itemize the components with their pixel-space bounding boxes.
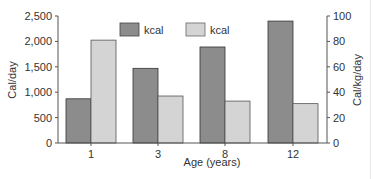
x-tick-label: 12 — [287, 148, 299, 160]
bar-cal-per-kg-day — [225, 101, 250, 143]
x-axis-label: Age (years) — [184, 156, 241, 168]
bars — [66, 21, 318, 143]
y-tick-label: 2,000 — [24, 35, 52, 47]
x-tick-label: 3 — [155, 148, 161, 160]
legend-label-light: kcal — [210, 24, 230, 36]
legend-swatch-light — [186, 23, 205, 36]
bar-cal-per-kg-day — [91, 40, 116, 143]
bar-cal-per-day — [268, 21, 293, 143]
legend: kcal kcal — [120, 23, 230, 36]
x-tick-label: 1 — [88, 148, 94, 160]
y-tick-label: 2,500 — [24, 10, 52, 22]
y-axis-label: Cal/day — [6, 61, 18, 99]
bar-cal-per-day — [200, 47, 225, 143]
legend-label-dark: kcal — [144, 24, 164, 36]
y2-tick-label: 80 — [333, 35, 345, 47]
legend-swatch-dark — [120, 23, 139, 36]
bar-cal-per-kg-day — [158, 96, 183, 143]
y2-tick-label: 40 — [333, 86, 345, 98]
bar-chart: 05001,0001,5002,0002,500 020406080100 13… — [0, 0, 376, 179]
y2-axis-label: Cal/kg/day — [351, 54, 363, 106]
right-y-axis: 020406080100 — [327, 10, 351, 149]
page-edge — [370, 0, 371, 179]
y-tick-label: 1,000 — [24, 86, 52, 98]
y-tick-label: 0 — [46, 137, 52, 149]
y-tick-label: 500 — [34, 112, 52, 124]
y2-tick-label: 20 — [333, 112, 345, 124]
y2-tick-label: 100 — [333, 10, 351, 22]
y2-tick-label: 60 — [333, 61, 345, 73]
bar-cal-per-day — [133, 68, 158, 143]
left-y-axis: 05001,0001,5002,0002,500 — [24, 10, 58, 149]
y-tick-label: 1,500 — [24, 61, 52, 73]
bar-cal-per-day — [66, 99, 91, 143]
bar-cal-per-kg-day — [293, 104, 318, 143]
y2-tick-label: 0 — [333, 137, 339, 149]
